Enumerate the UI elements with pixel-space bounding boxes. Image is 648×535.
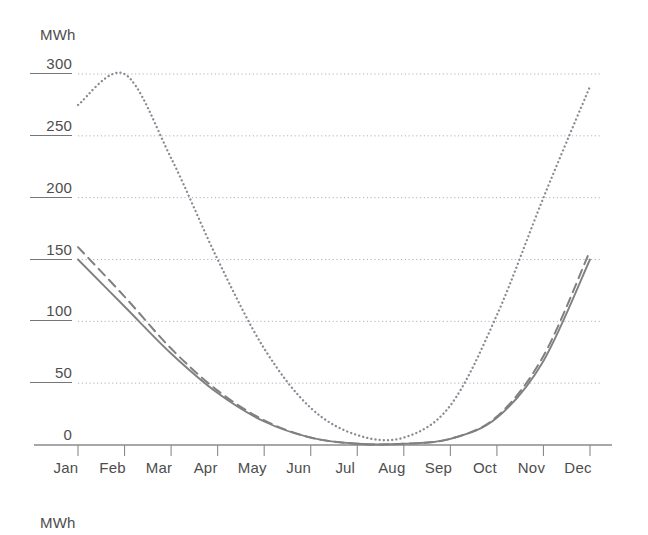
y-tick-label-0: 0: [30, 426, 72, 443]
series-line-dotted: [78, 73, 590, 441]
series-dotted: [78, 73, 590, 441]
x-tick-label-mar: Mar: [136, 459, 182, 476]
x-tick-label-jan: Jan: [43, 459, 89, 476]
y-axis-unit-bottom: MWh: [40, 514, 76, 531]
y-tick-label-200: 200: [30, 179, 72, 198]
x-tick-label-aug: Aug: [369, 459, 415, 476]
x-tick-label-apr: Apr: [183, 459, 229, 476]
x-tick-label-feb: Feb: [90, 459, 136, 476]
x-tick-label-dec: Dec: [555, 459, 601, 476]
x-axis-ticks: [78, 445, 590, 456]
x-tick-label-sep: Sep: [415, 459, 461, 476]
y-tick-label-300: 300: [30, 55, 72, 74]
x-tick-label-oct: Oct: [462, 459, 508, 476]
series-solid: [78, 260, 590, 445]
y-tick-label-150: 150: [30, 241, 72, 260]
x-tick-label-jul: Jul: [322, 459, 368, 476]
x-tick-label-jun: Jun: [276, 459, 322, 476]
chart-plot-area: [0, 0, 648, 535]
x-tick-label-may: May: [229, 459, 275, 476]
energy-chart: MWh 300250200150100500 JanFebMarAprMayJu…: [0, 0, 648, 535]
y-tick-label-50: 50: [30, 364, 72, 383]
series-line-solid: [78, 260, 590, 445]
y-tick-label-100: 100: [30, 302, 72, 321]
gridlines: [78, 74, 600, 383]
y-tick-label-250: 250: [30, 117, 72, 136]
x-tick-label-nov: Nov: [508, 459, 554, 476]
